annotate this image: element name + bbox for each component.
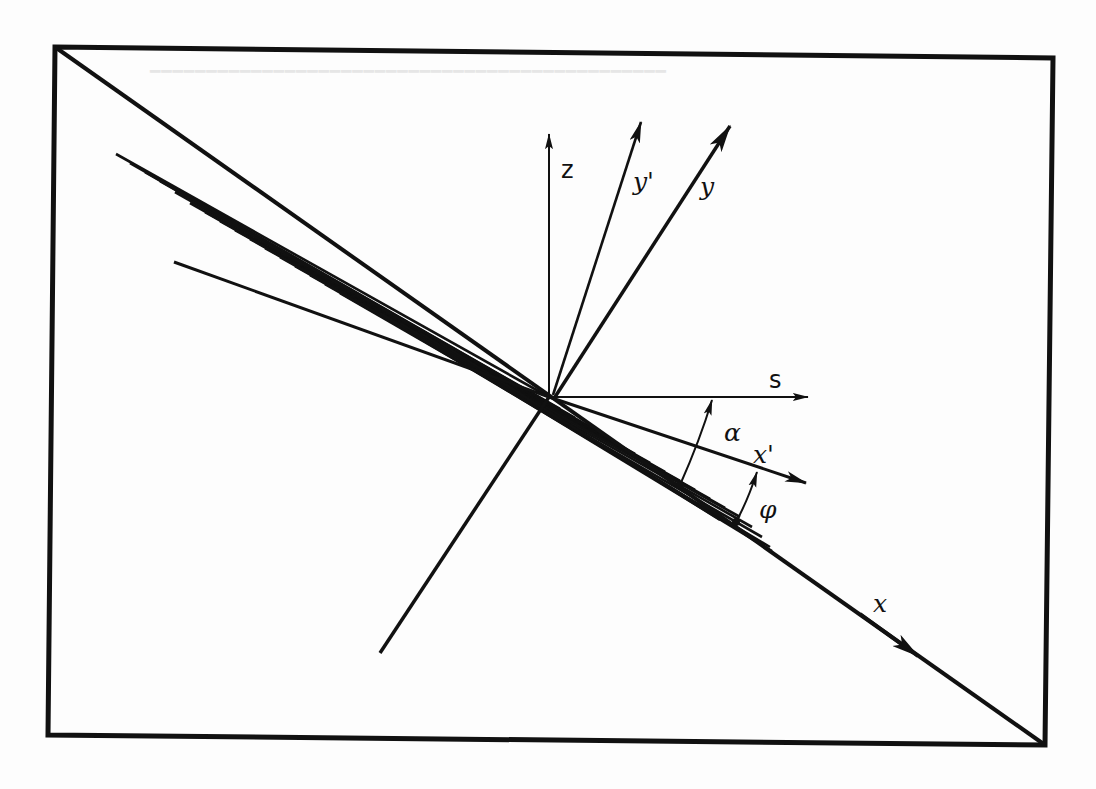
y-label: y <box>699 172 715 201</box>
phi-label: φ <box>759 495 777 524</box>
y-prime-label: y' <box>632 167 654 196</box>
s-label: s <box>769 366 782 394</box>
wedge-lower-line <box>174 262 549 397</box>
x-label: x <box>873 589 887 618</box>
diagram-canvas: ▔▔▔▔▔▔▔▔▔▔▔▔▔▔▔▔▔▔▔▔▔▔▔▔▔▔▔▔▔▔▔▔▔▔▔▔▔▔▔▔… <box>0 0 1096 789</box>
z-label: z <box>561 156 574 184</box>
coordinate-diagram: z y' y s α x' φ x <box>0 0 1096 789</box>
crossing-line <box>380 397 549 653</box>
x-prime-label: x' <box>753 440 774 469</box>
alpha-label: α <box>724 418 741 447</box>
